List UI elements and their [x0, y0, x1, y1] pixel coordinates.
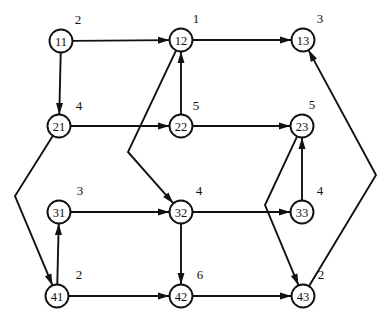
graph-edge [299, 138, 306, 201]
node-label: 23 [296, 120, 309, 134]
graph-node[interactable]: 31 [48, 201, 71, 224]
node-label: 41 [51, 290, 64, 304]
weights-layer: 213455344262 [75, 11, 325, 282]
graph-edge [69, 293, 170, 300]
graph-edge [193, 293, 292, 300]
node-label: 22 [175, 120, 188, 134]
edge-arrowhead [158, 123, 170, 130]
graph-node[interactable]: 23 [291, 115, 314, 138]
nodes-layer: 111213212223313233414243 [46, 29, 315, 308]
edge-arrowhead [158, 293, 170, 300]
node-label: 12 [175, 34, 188, 48]
edge-arrowhead [158, 209, 170, 216]
node-label: 42 [175, 290, 188, 304]
graph-edge [71, 123, 170, 130]
graph-node[interactable]: 22 [170, 115, 193, 138]
node-weight-label: 4 [317, 183, 324, 198]
graph-edge [56, 52, 63, 114]
graph-edge [193, 209, 291, 216]
node-label: 33 [296, 206, 309, 220]
edge-path [72, 40, 169, 41]
edge-arrowhead [291, 273, 299, 285]
graph-edge [193, 123, 291, 130]
graph-node[interactable]: 13 [292, 29, 315, 52]
edge-arrowhead [178, 273, 185, 285]
node-weight-label: 5 [309, 97, 316, 112]
node-weight-label: 4 [76, 98, 83, 113]
edge-arrowhead [158, 37, 170, 44]
node-weight-label: 6 [197, 267, 204, 282]
edge-arrowhead [308, 50, 317, 62]
node-label: 11 [55, 35, 67, 49]
node-weight-label: 2 [75, 12, 82, 27]
graph-node[interactable]: 32 [170, 201, 193, 224]
edge-path [308, 50, 376, 286]
graph-svg: 111213212223313233414243 213455344262 [0, 0, 389, 324]
node-weight-label: 2 [76, 267, 83, 282]
graph-node[interactable]: 12 [170, 29, 193, 52]
node-label: 32 [175, 206, 188, 220]
node-weight-label: 2 [318, 267, 325, 282]
graph-edge [193, 37, 292, 44]
graph-node[interactable]: 33 [291, 201, 314, 224]
edge-arrowhead [178, 52, 185, 64]
graph-edge [72, 37, 169, 44]
graph-edge [55, 223, 62, 284]
edge-arrowhead [280, 293, 292, 300]
edge-arrowhead [55, 223, 62, 235]
edge-arrowhead [279, 209, 291, 216]
edge-arrowhead [56, 103, 63, 115]
graph-node[interactable]: 21 [48, 115, 71, 138]
graph-edge [178, 52, 185, 115]
node-label: 13 [297, 34, 310, 48]
node-weight-label: 4 [196, 183, 203, 198]
diagram-canvas: 111213212223313233414243 213455344262 [0, 0, 389, 324]
edge-arrowhead [280, 37, 292, 44]
node-label: 43 [297, 290, 310, 304]
node-label: 21 [53, 120, 66, 134]
graph-node[interactable]: 11 [50, 30, 73, 53]
graph-node[interactable]: 43 [292, 285, 315, 308]
edges-layer [15, 37, 376, 300]
node-weight-label: 3 [77, 183, 84, 198]
graph-node[interactable]: 42 [170, 285, 193, 308]
node-label: 31 [53, 206, 66, 220]
edge-arrowhead [45, 273, 53, 285]
graph-edge [308, 50, 376, 286]
node-weight-label: 3 [317, 11, 324, 26]
edge-arrowhead [299, 138, 306, 150]
graph-node[interactable]: 41 [46, 285, 69, 308]
edge-arrowhead [279, 123, 291, 130]
graph-edge [71, 209, 170, 216]
node-weight-label: 5 [193, 98, 200, 113]
node-weight-label: 1 [193, 11, 200, 26]
graph-edge [178, 224, 185, 285]
